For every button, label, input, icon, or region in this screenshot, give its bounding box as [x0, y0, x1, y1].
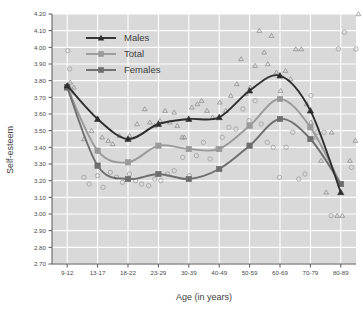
y-tick-label: 4.20: [34, 10, 47, 17]
y-tick-label: 3.90: [34, 60, 47, 67]
cut-off-title: [96, 0, 286, 4]
legend-label: Males: [124, 32, 150, 43]
data-point-marker: [186, 146, 191, 151]
data-point-marker: [95, 163, 100, 168]
x-tick-label: 70-79: [302, 269, 318, 276]
y-tick-label: 4.10: [34, 27, 47, 34]
x-tick-label: 50-59: [242, 269, 258, 276]
y-tick-label: 2.70: [34, 260, 47, 267]
data-point-marker: [277, 116, 282, 121]
legend-marker-square: [98, 67, 104, 73]
data-point-marker: [125, 160, 130, 165]
data-point-marker: [308, 136, 313, 141]
x-tick-label: 60-69: [272, 269, 288, 276]
data-point-marker: [277, 96, 282, 101]
data-point-marker: [247, 143, 252, 148]
data-point-marker: [308, 125, 313, 130]
legend-label: Females: [124, 64, 161, 75]
data-point-marker: [95, 148, 100, 153]
data-point-marker: [186, 176, 191, 181]
chart-figure: 2.702.802.903.003.103.203.303.403.503.60…: [0, 0, 363, 315]
data-point-marker: [217, 146, 222, 151]
x-tick-label: 13-17: [90, 269, 106, 276]
data-point-marker: [156, 143, 161, 148]
self-esteem-line-chart: 2.702.802.903.003.103.203.303.403.503.60…: [0, 0, 363, 315]
x-tick-label: 9-12: [61, 269, 74, 276]
x-tick-label: 30-39: [181, 269, 197, 276]
data-point-marker: [156, 171, 161, 176]
data-point-marker: [125, 176, 130, 181]
x-axis-label: Age (in years): [176, 292, 232, 302]
legend-marker-square: [98, 51, 104, 57]
y-tick-label: 3.00: [34, 210, 47, 217]
y-tick-label: 3.30: [34, 160, 47, 167]
x-tick-label: 40-49: [211, 269, 227, 276]
x-tick-label: 80-89: [333, 269, 349, 276]
x-tick-label: 23-29: [150, 269, 166, 276]
data-point-marker: [247, 123, 252, 128]
y-tick-label: 3.20: [34, 177, 47, 184]
y-tick-label: 3.70: [34, 94, 47, 101]
legend-label: Total: [124, 48, 144, 59]
y-tick-label: 3.10: [34, 194, 47, 201]
y-tick-label: 4.00: [34, 44, 47, 51]
y-tick-label: 2.90: [34, 227, 47, 234]
y-axis-label: Self-esteem: [5, 126, 15, 174]
data-point-marker: [217, 166, 222, 171]
y-tick-label: 3.60: [34, 110, 47, 117]
y-tick-label: 3.50: [34, 127, 47, 134]
y-tick-label: 3.80: [34, 77, 47, 84]
x-tick-label: 18-22: [120, 269, 136, 276]
y-tick-label: 2.80: [34, 244, 47, 251]
y-tick-label: 3.40: [34, 144, 47, 151]
